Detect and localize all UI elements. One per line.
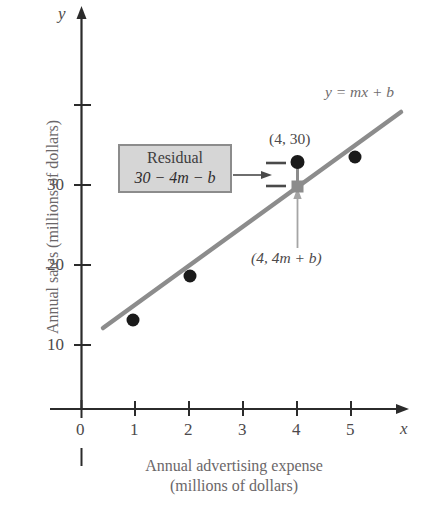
x-tick-label-5: 5 bbox=[346, 421, 355, 438]
data-point-2 bbox=[184, 270, 197, 283]
y-axis-caption-text: Annual sales (millions of dollars) bbox=[44, 120, 61, 334]
residual-expression: 30 − 4m − b bbox=[134, 169, 215, 187]
residual-title: Residual bbox=[147, 150, 203, 167]
fitted-point-marker bbox=[292, 181, 304, 193]
observed-point-label: (4, 30) bbox=[269, 131, 310, 147]
x-tick-label-1: 1 bbox=[130, 421, 139, 438]
x-tick-label-0: 0 bbox=[76, 421, 85, 438]
data-point-1 bbox=[127, 314, 140, 327]
y-axis-caption: Annual sales (millions of dollars) bbox=[44, 62, 70, 392]
scatter-plot-figure: y x 30 20 10 0 1 2 3 4 5 y = mx + b (4, … bbox=[0, 0, 428, 511]
y-axis-variable-label: y bbox=[58, 5, 66, 22]
y-axis-arrowhead bbox=[77, 6, 87, 19]
x-axis-caption-line1: Annual advertising expense bbox=[64, 456, 404, 476]
x-tick-label-4: 4 bbox=[292, 421, 301, 438]
x-axis-caption: Annual advertising expense (millions of … bbox=[64, 456, 404, 496]
x-tick-label-2: 2 bbox=[184, 421, 193, 438]
x-axis-arrowhead bbox=[396, 404, 409, 414]
data-point-4 bbox=[349, 151, 362, 164]
x-tick-label-3: 3 bbox=[238, 421, 247, 438]
x-axis-caption-line2: (millions of dollars) bbox=[64, 476, 404, 496]
line-equation-label: y = mx + b bbox=[325, 84, 394, 100]
data-point-3 bbox=[291, 155, 305, 169]
residual-callout-arrowhead bbox=[261, 171, 272, 179]
fitted-point-label: (4, 4m + b) bbox=[251, 250, 322, 266]
residual-callout-box: Residual 30 − 4m − b bbox=[118, 144, 232, 193]
x-axis-variable-label: x bbox=[400, 420, 408, 437]
